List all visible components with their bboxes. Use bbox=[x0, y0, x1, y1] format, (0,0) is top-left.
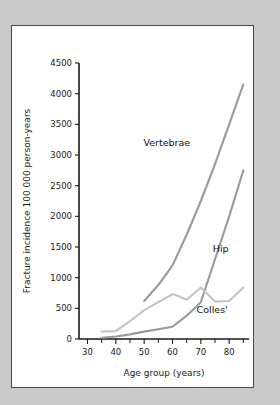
y-tick-label: 4000 bbox=[50, 89, 72, 99]
x-tick-label: 50 bbox=[139, 347, 150, 357]
data-series-group bbox=[102, 84, 244, 337]
y-tick-label: 0 bbox=[67, 334, 72, 344]
y-tick-label: 4500 bbox=[50, 58, 72, 68]
x-axis-title: Age group (years) bbox=[123, 368, 204, 378]
y-tick-label: 500 bbox=[56, 303, 72, 313]
x-tick-label: 80 bbox=[224, 347, 235, 357]
x-tick-label: 60 bbox=[167, 347, 178, 357]
y-tick-label: 1000 bbox=[50, 273, 72, 283]
series-label-hip: Hip bbox=[213, 243, 229, 254]
x-tick-label: 40 bbox=[110, 347, 121, 357]
y-tick-label: 2500 bbox=[50, 181, 72, 191]
chart-panel: 050010001500200025003000350040004500 304… bbox=[11, 25, 254, 388]
x-tick-label: 30 bbox=[82, 347, 93, 357]
x-tick-label: 70 bbox=[195, 347, 206, 357]
series-label-vertebrae: Vertebrae bbox=[143, 137, 190, 148]
y-axis-title: Fracture incidence 100 000 person-years bbox=[22, 108, 32, 293]
y-tick-label: 3000 bbox=[50, 150, 72, 160]
series-label-colles: Colles' bbox=[197, 304, 228, 315]
fracture-incidence-line-chart: 050010001500200025003000350040004500 304… bbox=[12, 26, 253, 387]
y-tick-label: 3500 bbox=[50, 119, 72, 129]
data-line-vertebrae bbox=[144, 84, 243, 301]
y-tick-label: 1500 bbox=[50, 242, 72, 252]
x-axis-tick-group: 304050607080 bbox=[82, 339, 243, 357]
y-axis-tick-group: 050010001500200025003000350040004500 bbox=[50, 58, 79, 344]
y-tick-label: 2000 bbox=[50, 211, 72, 221]
